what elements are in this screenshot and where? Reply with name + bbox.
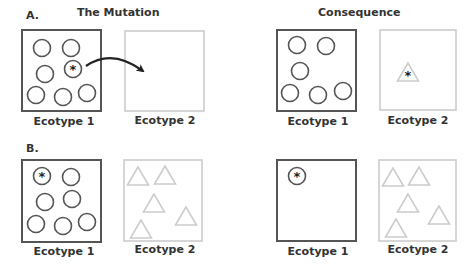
b-consequence-ecotype2-label: Ecotype 2 [388,243,449,256]
ecotype2-box [125,31,204,111]
a-consequence-ecotype2-label: Ecotype 2 [388,114,449,127]
mutation-asterisk-icon: * [405,68,412,83]
ecotype1-box [22,30,101,111]
mutation-asterisk-icon: * [39,169,46,184]
diagram-canvas: **** [0,0,474,271]
diagram-shapes: **** [22,30,456,242]
ecotype2-box [380,30,456,110]
b-consequence-ecotype1-label: Ecotype 1 [288,245,349,258]
b-mutation-ecotype2-label: Ecotype 2 [135,243,196,256]
a-mutation-ecotype1-label: Ecotype 1 [34,115,95,128]
a-consequence-ecotype1-label: Ecotype 1 [288,115,349,128]
mutation-asterisk-icon: * [294,169,301,184]
b-mutation-ecotype1-label: Ecotype 1 [34,245,95,258]
panel-b-label: B. [26,142,39,155]
mutation-asterisk-icon: * [70,62,77,77]
mutation-title: The Mutation [77,6,160,19]
panel-a-label: A. [26,9,39,22]
a-mutation-ecotype2-label: Ecotype 2 [135,114,196,127]
consequence-title: Consequence [318,6,400,19]
